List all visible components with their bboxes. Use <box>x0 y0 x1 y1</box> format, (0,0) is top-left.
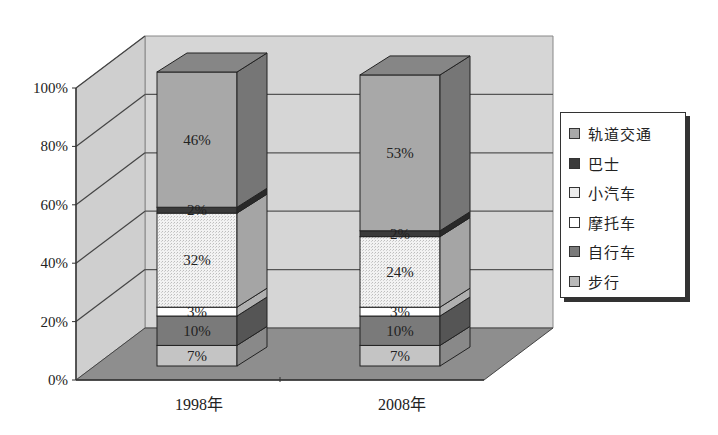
data-label: 3% <box>390 304 410 320</box>
legend: 轨道交通巴士小汽车摩托车自行车步行 <box>560 112 686 298</box>
legend-swatch <box>569 128 580 139</box>
bar-stack-1998年: 7%10%3%32%2%46% <box>157 53 267 366</box>
legend-item: 自行车 <box>569 237 685 267</box>
y-tick-label: 60% <box>41 197 69 213</box>
y-tick-label: 100% <box>33 80 68 96</box>
legend-swatch <box>569 158 580 169</box>
data-label: 10% <box>386 323 414 339</box>
data-label: 7% <box>390 348 410 364</box>
legend-label: 摩托车 <box>588 212 636 233</box>
data-label: 2% <box>390 226 410 242</box>
y-axis: 0%20%40%60%80%100% <box>33 80 76 388</box>
legend-swatch <box>569 276 580 287</box>
legend-label: 步行 <box>588 271 620 292</box>
y-tick-label: 20% <box>41 314 69 330</box>
legend-item: 小汽车 <box>569 178 685 208</box>
legend-item: 轨道交通 <box>569 119 685 149</box>
legend-swatch <box>569 246 580 257</box>
x-tick-label: 1998年 <box>175 396 223 413</box>
bar-side-轨道交通 <box>440 56 470 231</box>
legend-item: 步行 <box>569 267 685 297</box>
legend-label: 轨道交通 <box>588 123 652 144</box>
data-label: 10% <box>183 323 211 339</box>
legend-swatch <box>569 217 580 228</box>
bar-side-小汽车 <box>237 194 267 307</box>
x-axis: 1998年2008年 <box>175 377 426 413</box>
legend-label: 巴士 <box>588 153 620 174</box>
legend-item: 摩托车 <box>569 208 685 238</box>
x-tick-label: 2008年 <box>378 396 426 413</box>
legend-item: 巴士 <box>569 149 685 179</box>
data-label: 46% <box>183 132 211 148</box>
y-tick-label: 0% <box>48 372 68 388</box>
data-label: 2% <box>187 202 207 218</box>
chart-walls <box>76 36 553 380</box>
data-label: 7% <box>187 348 207 364</box>
legend-label: 自行车 <box>588 241 636 262</box>
data-label: 53% <box>386 145 414 161</box>
side-wall <box>76 36 145 380</box>
data-label: 3% <box>187 304 207 320</box>
bar-stack-2008年: 7%10%3%24%2%53% <box>360 56 470 366</box>
legend-swatch <box>569 187 580 198</box>
floor <box>76 328 553 380</box>
y-tick-label: 40% <box>41 255 69 271</box>
legend-label: 小汽车 <box>588 182 636 203</box>
data-label: 24% <box>386 264 414 280</box>
y-tick-label: 80% <box>41 138 69 154</box>
data-label: 32% <box>183 252 211 268</box>
bar-side-轨道交通 <box>237 53 267 207</box>
